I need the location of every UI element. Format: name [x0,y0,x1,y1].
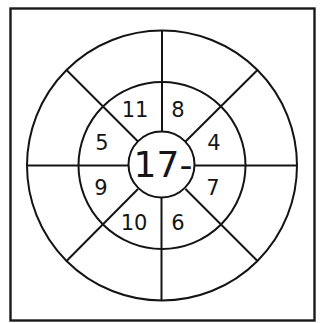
number-left-top: 5 [95,131,108,155]
number-bottom-right: 6 [171,211,184,235]
number-top-right: 8 [171,98,184,122]
center-label: 17- [134,144,193,185]
number-right-top: 4 [207,131,220,155]
number-right-bottom: 7 [206,176,219,200]
subtraction-wheel-diagram: 17- 8 4 7 6 10 9 5 11 [0,0,322,323]
number-left-bottom: 9 [94,176,107,200]
number-bottom-left: 10 [121,211,148,235]
number-top-left: 11 [122,98,149,122]
